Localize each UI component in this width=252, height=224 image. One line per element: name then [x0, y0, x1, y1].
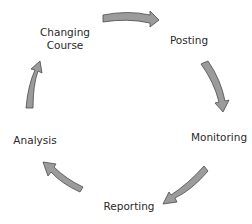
stage-analysis: Analysis: [13, 134, 56, 147]
stage-changing-course-line1: Changing: [40, 26, 90, 39]
stage-posting: Posting: [170, 34, 208, 47]
stage-changing-course: Changing Course: [40, 26, 90, 52]
stage-changing-course-line2: Course: [40, 39, 90, 52]
stage-reporting: Reporting: [103, 200, 154, 213]
arrow-up-icon: [26, 61, 42, 108]
stage-monitoring: Monitoring: [191, 131, 247, 144]
arrow-down-left-icon: [163, 166, 208, 204]
arrow-down-icon: [201, 61, 229, 112]
cycle-diagram: Changing Course Posting Monitoring Repor…: [0, 0, 252, 224]
cycle-arrows: [0, 0, 252, 224]
arrow-right-icon: [103, 11, 159, 27]
arrow-up-left-icon: [43, 162, 83, 192]
